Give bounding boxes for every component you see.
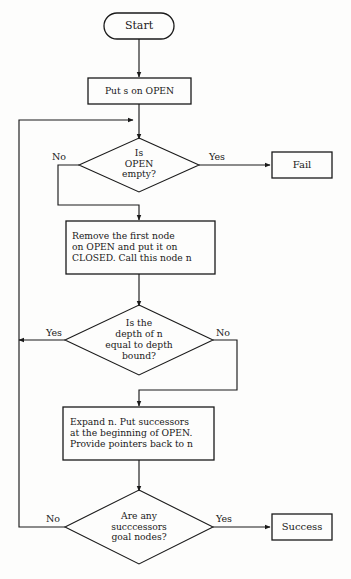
expand-n-box-shape: [63, 407, 214, 460]
goal-check-diamond-shape: [65, 490, 213, 564]
remove-first-node-box-shape: [66, 221, 215, 274]
is-open-empty-diamond-shape: [79, 138, 199, 192]
flowchart-canvas: [0, 0, 351, 579]
put-s-on-open-box-shape: [88, 78, 191, 104]
depth-check-diamond-shape: [65, 305, 213, 375]
edge-depth-no-to-expand: [139, 340, 237, 406]
fail-box-shape: [272, 152, 332, 178]
flowchart-page: Start Put s on OPEN Is OPEN empty? Fail …: [0, 0, 351, 579]
success-box-shape: [272, 514, 332, 540]
start-oval-shape: [104, 13, 174, 39]
